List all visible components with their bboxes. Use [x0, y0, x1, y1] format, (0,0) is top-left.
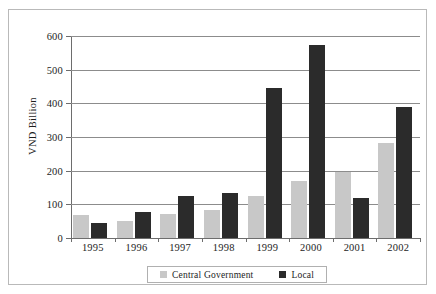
- y-axis-tick-label: 200: [47, 165, 63, 176]
- bar-local: [178, 196, 194, 238]
- bar-central-government: [160, 214, 176, 238]
- x-axis-tick: [202, 238, 203, 242]
- y-axis-tick-label: 100: [47, 199, 63, 210]
- bar-group: [333, 36, 377, 238]
- bar-central-government: [378, 143, 394, 238]
- bar-local: [135, 212, 151, 238]
- bar-group: [71, 36, 115, 238]
- bar-local: [353, 198, 369, 238]
- plot-area: 6005004003002001000 19951996199719981999…: [71, 36, 420, 238]
- bar-group: [115, 36, 159, 238]
- bar-central-government: [291, 181, 307, 238]
- legend-swatch-central: [160, 271, 167, 278]
- legend-label: Local: [291, 270, 314, 280]
- y-axis-tick-label: 300: [47, 132, 63, 143]
- bar-local: [91, 223, 107, 238]
- bar-group: [158, 36, 202, 238]
- chart-legend: Central GovernmentLocal: [147, 266, 327, 283]
- x-axis-tick: [115, 238, 116, 242]
- bar-central-government: [204, 210, 220, 238]
- x-axis-tick-label: 2002: [387, 242, 409, 253]
- x-axis-tick-label: 1997: [169, 242, 191, 253]
- bar-central-government: [335, 172, 351, 238]
- legend-item: Local: [279, 270, 314, 280]
- bar-central-government: [73, 215, 89, 238]
- x-axis-tick-label: 1999: [256, 242, 278, 253]
- bar-central-government: [117, 221, 133, 239]
- x-axis-tick: [71, 238, 72, 242]
- x-axis-tick-label: 1995: [82, 242, 104, 253]
- y-axis-tick-label: 600: [47, 31, 63, 42]
- y-axis-tick-label: 400: [47, 98, 63, 109]
- bar-local: [266, 88, 282, 238]
- bar-central-government: [248, 196, 264, 238]
- chart-frame: VND Billion 6005004003002001000 19951996…: [8, 9, 427, 285]
- legend-item: Central Government: [160, 270, 253, 280]
- x-axis-tick: [289, 238, 290, 242]
- y-axis-title: VND Billion: [27, 97, 38, 155]
- legend-swatch-local: [279, 271, 286, 278]
- y-axis-tick-label: 500: [47, 64, 63, 75]
- x-axis-tick: [333, 238, 334, 242]
- bar-local: [309, 45, 325, 238]
- x-axis-tick-label: 1998: [213, 242, 235, 253]
- x-axis-tick-label: 2001: [344, 242, 366, 253]
- x-axis-tick-label: 2000: [300, 242, 322, 253]
- x-axis-tick-label: 1996: [126, 242, 148, 253]
- bar-local: [396, 107, 412, 238]
- bar-group: [376, 36, 420, 238]
- bar-group: [202, 36, 246, 238]
- x-axis-tick: [420, 238, 421, 242]
- x-axis-tick: [158, 238, 159, 242]
- bar-local: [222, 193, 238, 238]
- bar-group: [246, 36, 290, 238]
- x-axis-tick: [246, 238, 247, 242]
- legend-label: Central Government: [172, 270, 253, 280]
- y-axis-tick-label: 0: [58, 233, 63, 244]
- bar-group: [289, 36, 333, 238]
- x-axis-tick: [376, 238, 377, 242]
